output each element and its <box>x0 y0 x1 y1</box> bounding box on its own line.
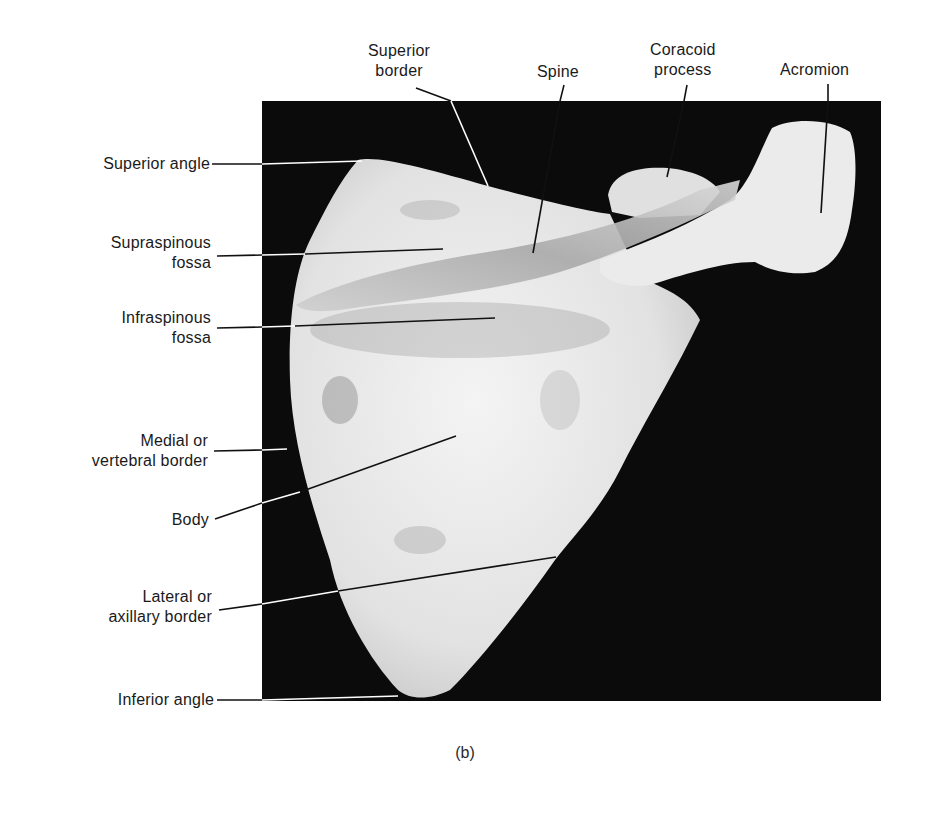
label-inferior-angle: Inferior angle <box>118 690 214 710</box>
label-supraspinous-fossa: Supraspinous fossa <box>111 233 211 273</box>
label-body: Body <box>172 510 209 530</box>
label-spine: Spine <box>537 62 579 82</box>
figure: Superior border Spine Coracoid process A… <box>0 0 930 814</box>
label-medial-border: Medial or vertebral border <box>92 431 208 471</box>
label-lateral-border: Lateral or axillary border <box>109 587 212 627</box>
label-acromion: Acromion <box>780 60 849 80</box>
figure-caption: (b) <box>0 744 930 762</box>
label-superior-angle: Superior angle <box>103 154 210 174</box>
label-coracoid-process: Coracoid process <box>650 40 716 80</box>
label-infraspinous-fossa: Infraspinous fossa <box>121 308 211 348</box>
label-superior-border: Superior border <box>368 41 430 81</box>
